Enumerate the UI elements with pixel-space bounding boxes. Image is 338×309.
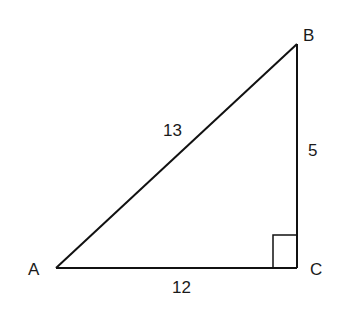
vertex-label-b: B [303,26,314,45]
side-label-ab: 13 [163,121,182,140]
triangle-abc [56,44,297,268]
side-label-ac: 12 [172,278,191,297]
side-ab [56,44,297,268]
right-angle-marker [273,235,297,268]
vertex-label-c: C [310,260,322,279]
vertex-label-a: A [28,260,40,279]
right-triangle-diagram: A B C 13 5 12 [0,0,338,309]
side-label-bc: 5 [308,141,317,160]
